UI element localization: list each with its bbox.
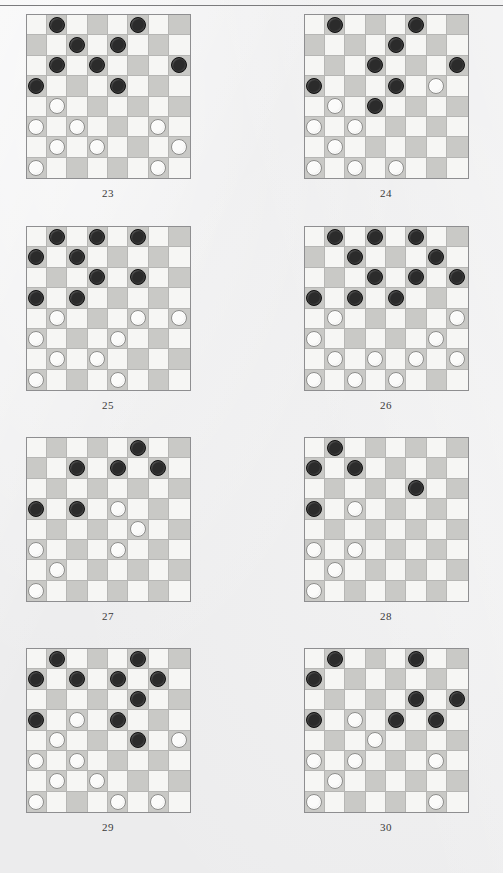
board-square[interactable] (305, 349, 325, 369)
board-square[interactable] (386, 349, 406, 369)
black-piece[interactable] (69, 249, 85, 265)
board-square[interactable] (108, 669, 128, 689)
board-square[interactable] (169, 438, 189, 458)
board-square[interactable] (27, 349, 47, 369)
board-square[interactable] (427, 137, 447, 157)
board-square[interactable] (447, 56, 467, 76)
board-square[interactable] (149, 15, 169, 35)
board-square[interactable] (47, 771, 67, 791)
board-square[interactable] (345, 247, 365, 267)
board-square[interactable] (345, 117, 365, 137)
board-square[interactable] (447, 349, 467, 369)
board-square[interactable] (67, 137, 87, 157)
black-piece[interactable] (150, 671, 166, 687)
board-square[interactable] (427, 731, 447, 751)
black-piece[interactable] (306, 712, 322, 728)
board-square[interactable] (427, 560, 447, 580)
board-square[interactable] (27, 438, 47, 458)
board-square[interactable] (169, 329, 189, 349)
board-square[interactable] (27, 649, 47, 669)
board-square[interactable] (169, 669, 189, 689)
board-square[interactable] (27, 731, 47, 751)
black-piece[interactable] (69, 37, 85, 53)
board-square[interactable] (447, 329, 467, 349)
board-square[interactable] (27, 458, 47, 478)
board-square[interactable] (169, 349, 189, 369)
board-square[interactable] (366, 771, 386, 791)
board-square[interactable] (128, 690, 148, 710)
board-square[interactable] (305, 247, 325, 267)
board-square[interactable] (27, 329, 47, 349)
board-square[interactable] (169, 520, 189, 540)
board-square[interactable] (447, 520, 467, 540)
board-square[interactable] (47, 690, 67, 710)
board-square[interactable] (108, 370, 128, 390)
board-square[interactable] (108, 520, 128, 540)
white-piece[interactable] (428, 78, 444, 94)
board-square[interactable] (128, 458, 148, 478)
board-square[interactable] (305, 649, 325, 669)
board-square[interactable] (345, 15, 365, 35)
board-square[interactable] (149, 771, 169, 791)
white-piece[interactable] (327, 98, 343, 114)
white-piece[interactable] (130, 521, 146, 537)
board-square[interactable] (386, 35, 406, 55)
board-square[interactable] (149, 76, 169, 96)
board-square[interactable] (447, 35, 467, 55)
white-piece[interactable] (327, 562, 343, 578)
board-square[interactable] (88, 792, 108, 812)
board-square[interactable] (169, 137, 189, 157)
board-square[interactable] (128, 479, 148, 499)
board-square[interactable] (406, 137, 426, 157)
board-square[interactable] (149, 35, 169, 55)
board-square[interactable] (366, 268, 386, 288)
board-square[interactable] (128, 97, 148, 117)
board-square[interactable] (345, 690, 365, 710)
board-square[interactable] (406, 540, 426, 560)
board-square[interactable] (128, 15, 148, 35)
board-square[interactable] (406, 247, 426, 267)
board-square[interactable] (325, 581, 345, 601)
white-piece[interactable] (388, 160, 404, 176)
white-piece[interactable] (449, 310, 465, 326)
board-square[interactable] (47, 520, 67, 540)
black-piece[interactable] (408, 17, 424, 33)
board-square[interactable] (169, 690, 189, 710)
black-piece[interactable] (367, 269, 383, 285)
board-square[interactable] (169, 15, 189, 35)
board-square[interactable] (305, 56, 325, 76)
white-piece[interactable] (327, 351, 343, 367)
board-square[interactable] (345, 731, 365, 751)
board-square[interactable] (27, 771, 47, 791)
board-square[interactable] (169, 771, 189, 791)
board-square[interactable] (47, 540, 67, 560)
board-square[interactable] (88, 560, 108, 580)
board-square[interactable] (88, 581, 108, 601)
white-piece[interactable] (428, 331, 444, 347)
board-square[interactable] (169, 710, 189, 730)
black-piece[interactable] (28, 290, 44, 306)
board-square[interactable] (128, 499, 148, 519)
board-square[interactable] (325, 137, 345, 157)
black-piece[interactable] (327, 229, 343, 245)
white-piece[interactable] (69, 712, 85, 728)
board-square[interactable] (67, 76, 87, 96)
white-piece[interactable] (89, 773, 105, 789)
board-square[interactable] (47, 247, 67, 267)
board-square[interactable] (47, 268, 67, 288)
board-square[interactable] (447, 499, 467, 519)
board-square[interactable] (47, 15, 67, 35)
board-square[interactable] (406, 731, 426, 751)
board-square[interactable] (128, 309, 148, 329)
white-piece[interactable] (428, 753, 444, 769)
white-piece[interactable] (347, 372, 363, 388)
board-square[interactable] (325, 669, 345, 689)
board-square[interactable] (366, 247, 386, 267)
board-square[interactable] (406, 581, 426, 601)
board-square[interactable] (108, 581, 128, 601)
white-piece[interactable] (327, 310, 343, 326)
board-square[interactable] (88, 137, 108, 157)
board-square[interactable] (305, 227, 325, 247)
white-piece[interactable] (306, 331, 322, 347)
black-piece[interactable] (306, 460, 322, 476)
